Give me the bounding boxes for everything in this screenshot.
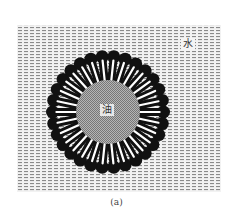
water-label: 水: [181, 38, 195, 50]
figure-caption: (a): [0, 197, 233, 207]
oil-label: 油: [100, 104, 114, 116]
micelle-diagram: [0, 0, 233, 219]
